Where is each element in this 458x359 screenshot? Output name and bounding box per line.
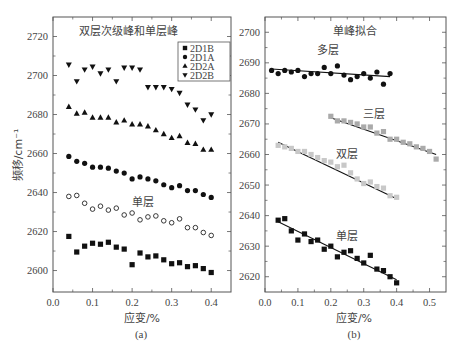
data-point [295,237,300,242]
chart-panel-b: 0.00.10.20.30.40.52620263026402650266026… [239,17,446,341]
data-point [361,260,366,265]
data-point [269,68,274,73]
data-point [82,67,88,72]
y-tick-label: 2670 [239,118,260,129]
data-point [114,206,119,211]
data-point [335,254,340,259]
data-point [145,254,150,259]
data-point [374,184,379,189]
data-point [66,234,71,239]
data-point [394,280,399,285]
data-point [74,193,79,198]
legend-entry: 2D2B [190,70,214,81]
data-point [302,74,307,79]
x-tick-label: 0.0 [258,297,271,308]
data-point [66,104,72,109]
data-point [169,135,175,140]
data-point [192,141,198,146]
data-point [137,121,143,126]
data-point [308,152,313,157]
data-point [420,146,425,151]
data-point [90,114,96,119]
y-tick-label: 2700 [239,27,260,38]
data-point [374,131,379,136]
data-point [387,71,392,76]
data-point [208,112,214,117]
data-point [201,230,206,235]
x-tick-label: 0.0 [46,297,59,308]
data-point [122,213,127,218]
data-point [90,65,96,70]
data-point [394,195,399,200]
data-point [427,149,432,154]
data-point [341,72,346,77]
data-point [361,181,366,186]
data-point [113,79,119,84]
data-point [122,170,127,175]
data-point [276,71,281,76]
x-tick-label: 0.3 [165,297,178,308]
data-point [374,69,379,74]
data-point [282,216,287,221]
data-point [130,262,135,267]
y-tick-label: 2720 [27,31,48,42]
x-axis-label-a: 应变/% [124,311,160,325]
data-point [368,179,373,184]
data-point [414,144,419,149]
data-point [209,195,214,200]
data-point [348,170,353,175]
y-tick-label: 2640 [239,210,260,221]
data-point [315,155,320,160]
data-point [355,121,360,126]
data-point [328,244,333,249]
data-point [381,186,386,191]
data-point [161,219,166,224]
data-point [82,161,87,166]
data-point [322,65,327,70]
data-point [193,188,198,193]
data-point [322,247,327,252]
data-point [276,143,281,148]
data-point [208,146,214,151]
data-point [90,241,95,246]
x-tick-label: 0.5 [423,297,436,308]
y-tick-label: 2630 [239,241,260,252]
data-point [177,260,182,265]
series-label: 三层 [363,108,385,121]
data-point [295,68,300,73]
data-point [121,66,127,71]
data-point [348,120,353,125]
data-point [335,63,340,68]
data-point [295,149,300,154]
data-point [98,165,103,170]
series-label: 单层 [336,230,358,243]
series-label: 多层 [317,43,339,57]
data-point [137,67,143,72]
data-point [74,159,79,164]
legend-a: 2D1B2D1A2D2A2D2B [178,42,230,81]
data-point [381,268,386,273]
data-point [114,245,119,250]
data-point [302,231,307,236]
data-point [161,257,166,262]
x-tick-label: 0.1 [291,297,304,308]
data-point [328,114,333,119]
data-point [200,146,206,151]
data-point [185,225,190,230]
data-point [66,63,72,68]
data-point [138,218,143,223]
data-point [289,69,294,74]
data-point [137,174,142,179]
data-point [153,253,158,258]
data-points-a [66,63,214,276]
data-point [289,228,294,233]
data-point [308,71,313,76]
data-point [153,85,159,90]
data-point [381,129,386,134]
data-point [154,214,159,219]
data-point [381,82,386,87]
y-tick-label: 2680 [27,109,48,120]
data-point [374,266,379,271]
data-point [315,71,320,76]
data-point [335,164,340,169]
